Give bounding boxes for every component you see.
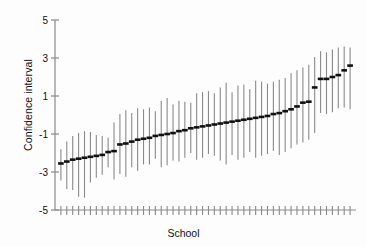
y-tick-label: 3	[42, 53, 48, 64]
error-bars	[61, 47, 350, 198]
plot-area: 531-1-3-5	[0, 0, 367, 247]
x-axis	[55, 206, 356, 215]
y-tick-label: -3	[39, 167, 48, 178]
y-axis: 531-1-3-5	[39, 15, 59, 216]
y-tick-label: -5	[39, 205, 48, 216]
y-tick-label: 5	[42, 15, 48, 26]
y-tick-label: -1	[39, 129, 48, 140]
confidence-interval-chart: Confidence interval School 531-1-3-5	[0, 0, 367, 247]
y-tick-label: 1	[42, 91, 48, 102]
